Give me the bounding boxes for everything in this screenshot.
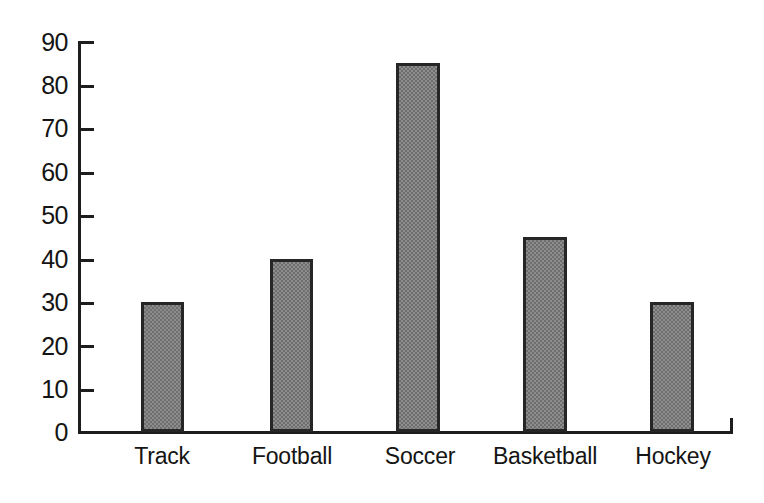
y-axis-tick-mark-90 (81, 41, 94, 44)
x-axis-category-label-hockey: Hockey (612, 441, 734, 471)
bar-chart-figure: 90 80 70 60 50 40 30 20 10 0 Track Footb… (0, 0, 764, 503)
x-axis-category-label-football: Football (222, 441, 362, 471)
x-axis-end-tick (730, 418, 733, 434)
y-axis-tick-label-0: 0 (12, 420, 68, 445)
y-axis-tick-mark-40 (81, 259, 94, 262)
y-axis-tick-label-20: 20 (12, 334, 68, 359)
y-axis-line (78, 41, 81, 434)
y-axis-tick-label-30: 30 (12, 290, 68, 315)
y-axis-tick-label-40: 40 (12, 247, 68, 272)
y-axis-tick-label-80: 80 (12, 73, 68, 98)
y-axis-tick-mark-60 (81, 172, 94, 175)
x-axis-category-label-track: Track (102, 441, 222, 471)
bar-track (141, 302, 184, 432)
y-axis-tick-mark-20 (81, 345, 94, 348)
y-axis-tick-mark-30 (81, 302, 94, 305)
bar-basketball (523, 237, 567, 432)
y-axis-tick-mark-10 (81, 389, 94, 392)
y-axis-tick-label-90: 90 (12, 30, 68, 55)
y-axis-tick-mark-80 (81, 85, 94, 88)
bar-football (270, 259, 313, 432)
y-axis-tick-label-60: 60 (12, 160, 68, 185)
bar-soccer (396, 63, 440, 432)
y-axis-tick-label-10: 10 (12, 377, 68, 402)
bar-hockey (650, 302, 694, 432)
y-axis-tick-label-70: 70 (12, 116, 68, 141)
y-axis-tick-label-50: 50 (12, 203, 68, 228)
x-axis-category-label-soccer: Soccer (360, 441, 480, 471)
x-axis-category-label-basketball: Basketball (471, 441, 619, 471)
y-axis-tick-mark-50 (81, 215, 94, 218)
y-axis-tick-mark-70 (81, 128, 94, 131)
